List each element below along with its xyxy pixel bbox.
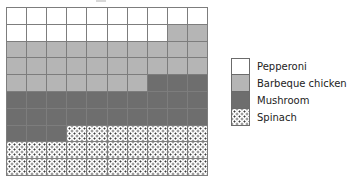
waffle-cell [188, 126, 208, 143]
waffle-cell [67, 8, 87, 25]
waffle-cell [188, 142, 208, 159]
waffle-cell [47, 25, 67, 42]
waffle-cell [108, 75, 128, 92]
waffle-cell [148, 25, 168, 42]
waffle-cell [148, 109, 168, 126]
waffle-cell [128, 159, 148, 176]
waffle-cell [87, 58, 107, 75]
waffle-cell [67, 25, 87, 42]
waffle-cell [27, 126, 47, 143]
waffle-cell [7, 25, 27, 42]
waffle-cell [47, 42, 67, 59]
waffle-cell [47, 159, 67, 176]
waffle-cell [27, 58, 47, 75]
waffle-cell [7, 142, 27, 159]
waffle-cell [188, 75, 208, 92]
waffle-cell [27, 25, 47, 42]
waffle-cell [27, 8, 47, 25]
waffle-cell [148, 8, 168, 25]
waffle-cell [108, 142, 128, 159]
waffle-cell [188, 25, 208, 42]
waffle-cell [47, 109, 67, 126]
waffle-cell [148, 75, 168, 92]
waffle-cell [87, 109, 107, 126]
legend-item-mushroom: Mushroom [231, 92, 343, 109]
waffle-cell [7, 159, 27, 176]
waffle-cell [168, 42, 188, 59]
waffle-cell [47, 92, 67, 109]
waffle-cell [168, 75, 188, 92]
waffle-cell [87, 75, 107, 92]
waffle-cell [148, 42, 168, 59]
legend: PepperoniBarbeque chickenMushroomSpinach [231, 58, 343, 126]
waffle-cell [67, 126, 87, 143]
waffle-cell [27, 109, 47, 126]
waffle-cell [168, 109, 188, 126]
waffle-cell [87, 126, 107, 143]
waffle-cell [168, 8, 188, 25]
waffle-cell [188, 92, 208, 109]
waffle-cell [128, 109, 148, 126]
waffle-cell [128, 126, 148, 143]
waffle-cell [67, 142, 87, 159]
waffle-cell [168, 142, 188, 159]
waffle-cell [148, 126, 168, 143]
waffle-cell [188, 109, 208, 126]
legend-label-mushroom: Mushroom [257, 95, 309, 106]
waffle-cell [128, 142, 148, 159]
legend-item-barbeque: Barbeque chicken [231, 75, 343, 92]
waffle-cell [108, 159, 128, 176]
scan-artifact [96, 0, 106, 2]
waffle-cell [7, 126, 27, 143]
waffle-cell [47, 8, 67, 25]
waffle-cell [148, 58, 168, 75]
waffle-cell [128, 75, 148, 92]
waffle-cell [168, 159, 188, 176]
waffle-cell [108, 109, 128, 126]
waffle-cell [7, 75, 27, 92]
waffle-cell [188, 8, 208, 25]
waffle-cell [27, 92, 47, 109]
waffle-cell [148, 92, 168, 109]
legend-label-spinach: Spinach [257, 112, 297, 123]
waffle-cell [47, 126, 67, 143]
waffle-cell [67, 159, 87, 176]
waffle-cell [108, 25, 128, 42]
waffle-cell [128, 92, 148, 109]
waffle-cell [188, 58, 208, 75]
waffle-cell [108, 8, 128, 25]
waffle-cell [168, 58, 188, 75]
legend-label-pepperoni: Pepperoni [257, 61, 307, 72]
legend-label-barbeque: Barbeque chicken [257, 78, 347, 89]
waffle-cell [108, 92, 128, 109]
waffle-cell [188, 159, 208, 176]
waffle-cell [128, 8, 148, 25]
waffle-cell [67, 42, 87, 59]
waffle-cell [108, 58, 128, 75]
legend-swatch-pepperoni [231, 58, 250, 75]
waffle-cell [67, 58, 87, 75]
waffle-cell [27, 42, 47, 59]
waffle-cell [128, 42, 148, 59]
waffle-cell [7, 92, 27, 109]
waffle-cell [87, 142, 107, 159]
waffle-cell [108, 42, 128, 59]
waffle-cell [87, 159, 107, 176]
legend-item-spinach: Spinach [231, 109, 343, 126]
waffle-cell [67, 75, 87, 92]
waffle-cell [7, 109, 27, 126]
waffle-cell [27, 75, 47, 92]
waffle-cell [168, 25, 188, 42]
waffle-cell [168, 92, 188, 109]
waffle-cell [7, 42, 27, 59]
waffle-cell [128, 25, 148, 42]
waffle-cell [47, 142, 67, 159]
waffle-cell [27, 159, 47, 176]
waffle-cell [108, 126, 128, 143]
legend-swatch-barbeque [231, 75, 250, 92]
waffle-cell [7, 58, 27, 75]
waffle-cell [87, 8, 107, 25]
waffle-cell [47, 75, 67, 92]
waffle-cell [87, 92, 107, 109]
